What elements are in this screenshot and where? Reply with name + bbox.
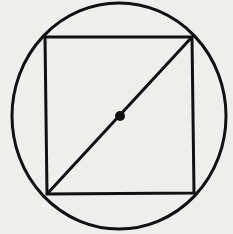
inscribed-square-diagram <box>0 0 233 234</box>
center-point <box>115 111 125 121</box>
diagram-canvas <box>0 0 233 234</box>
